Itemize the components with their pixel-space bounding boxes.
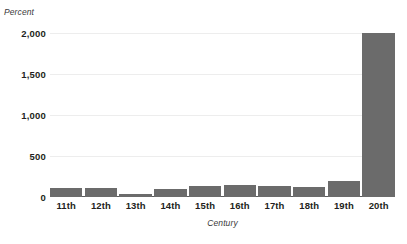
bar-14th — [154, 189, 186, 197]
bar-slot-16th — [224, 33, 256, 197]
bar-slot-14th — [154, 33, 186, 197]
y-tick-label-1000: 1,000 — [21, 110, 46, 121]
bar-slot-12th — [85, 33, 117, 197]
bar-13th — [119, 194, 151, 197]
bar-slot-15th — [189, 33, 221, 197]
bar-12th — [85, 188, 117, 197]
bar-slot-20th — [362, 33, 394, 197]
x-tick-label-20th: 20th — [362, 200, 394, 211]
x-axis-title: Century — [50, 218, 395, 228]
bar-slot-11th — [50, 33, 82, 197]
x-tick-label-12th: 12th — [85, 200, 117, 211]
bar-15th — [189, 186, 221, 197]
x-tick-label-15th: 15th — [189, 200, 221, 211]
bar-slot-17th — [258, 33, 290, 197]
bar-slot-19th — [328, 33, 360, 197]
bar-17th — [258, 186, 290, 197]
x-tick-label-13th: 13th — [119, 200, 151, 211]
bar-11th — [50, 188, 82, 197]
bar-slot-13th — [119, 33, 151, 197]
x-tick-label-11th: 11th — [50, 200, 82, 211]
x-tick-label-16th: 16th — [224, 200, 256, 211]
bar-20th — [362, 33, 394, 197]
bar-chart: Percent 2,000 1,500 1,000 500 0 11th 12t… — [0, 0, 407, 244]
x-tick-label-14th: 14th — [154, 200, 186, 211]
y-tick-label-1500: 1,500 — [21, 69, 46, 80]
y-axis-title: Percent — [4, 7, 34, 17]
bar-16th — [224, 185, 256, 197]
x-tick-label-17th: 17th — [258, 200, 290, 211]
bar-series — [50, 33, 395, 197]
y-tick-label-0: 0 — [41, 192, 46, 203]
y-tick-label-500: 500 — [30, 151, 46, 162]
x-tick-label-18th: 18th — [293, 200, 325, 211]
y-tick-label-2000: 2,000 — [21, 28, 46, 39]
bar-18th — [293, 187, 325, 197]
x-axis-tick-labels: 11th 12th 13th 14th 15th 16th 17th 18th … — [50, 200, 395, 211]
x-tick-label-19th: 19th — [328, 200, 360, 211]
bar-19th — [328, 181, 360, 197]
bar-slot-18th — [293, 33, 325, 197]
